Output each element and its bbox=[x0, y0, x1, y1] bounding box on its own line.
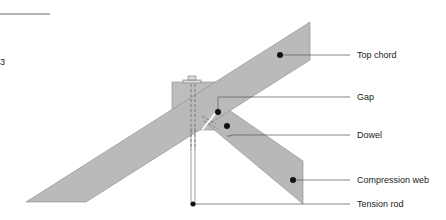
label-tension-rod: Tension rod bbox=[357, 200, 404, 209]
marker-gap bbox=[215, 109, 221, 115]
label-top-chord: Top chord bbox=[357, 51, 397, 60]
marker-tension-rod bbox=[191, 202, 196, 207]
label-dowel: Dowel bbox=[357, 131, 382, 140]
top-chord-member bbox=[26, 22, 310, 202]
truss-joint-diagram: 3 Top chord Gap Dowel Compression web Te… bbox=[0, 0, 446, 220]
marker-compression-web bbox=[290, 177, 296, 183]
label-gap: Gap bbox=[357, 93, 374, 102]
marker-top-chord bbox=[277, 52, 283, 58]
margin-text: 3 bbox=[0, 58, 5, 67]
washer-icon bbox=[183, 80, 201, 83]
label-compression-web: Compression web bbox=[357, 176, 429, 185]
marker-dowel bbox=[224, 123, 230, 129]
nut-icon bbox=[188, 76, 196, 80]
diagram-canvas bbox=[0, 0, 446, 220]
